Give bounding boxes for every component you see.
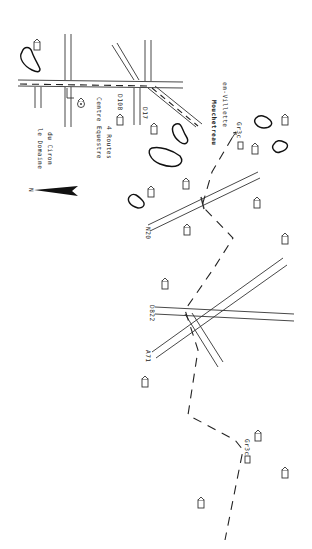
label-domaine-line1: le Domaine: [37, 128, 44, 169]
house-icon: [282, 467, 288, 478]
houses: [34, 39, 288, 508]
house-icon: [255, 430, 261, 441]
house-icon: [252, 143, 258, 154]
house-icon: [162, 278, 168, 289]
house-icon: [254, 197, 260, 208]
highway-d822: [155, 307, 294, 367]
label-road-a71: A71: [145, 350, 152, 362]
label-centre-equestre: Centre Equestre: [95, 97, 103, 159]
label-en-villette: en-Villette: [222, 82, 229, 127]
label-road-n20: N20: [145, 227, 152, 239]
castle-icon: [78, 98, 85, 108]
north-arrow-icon: N: [28, 186, 78, 196]
house-icon: [184, 224, 190, 235]
arrow-icon: [232, 132, 236, 138]
sketch-map: N le Domaine du Ciron Centre Equestre 4 …: [0, 0, 312, 549]
house-icon: [148, 186, 154, 197]
highway-n20: [148, 172, 260, 231]
label-gr3c-top: Gr3c: [236, 122, 243, 139]
label-domaine-line2: du Ciron: [47, 132, 54, 165]
house-icon: [282, 233, 288, 244]
gr3c-marker-top: [238, 142, 243, 149]
gr3c-marker-bottom: [245, 456, 250, 463]
house-icon: [151, 123, 157, 134]
house-icon: [183, 178, 189, 189]
label-gr3c-bottom: Gr3c: [244, 439, 251, 456]
label-4-routes: 4 Routes: [106, 126, 113, 159]
label-road-d17: D17: [142, 107, 149, 119]
house-icon: [117, 114, 123, 125]
house-icon: [142, 376, 148, 387]
hiking-trail-gr3c: [185, 138, 243, 540]
house-icon: [198, 497, 204, 508]
north-label: N: [28, 188, 35, 192]
label-road-d108: D108: [117, 94, 124, 111]
house-icon: [282, 114, 288, 125]
house-icon: [34, 39, 40, 50]
label-mouchetreau: Mouchetreau: [211, 100, 218, 145]
label-road-d822: D822: [149, 305, 156, 322]
road-network-top: [18, 34, 202, 127]
